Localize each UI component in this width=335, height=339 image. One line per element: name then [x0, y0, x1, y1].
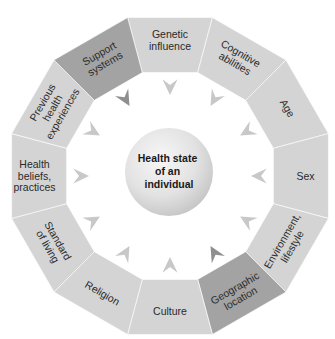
center-node: Health state of an individual: [125, 128, 213, 216]
segment-label-line: practices: [13, 181, 55, 193]
segment-label-line: beliefs,: [18, 170, 51, 182]
segment-label: Sex: [296, 170, 315, 182]
arrow-icon: [240, 121, 258, 135]
segment-label-line: Sex: [296, 170, 315, 182]
arrow-icon: [82, 217, 100, 231]
arrow-icon: [73, 168, 89, 183]
segment-label-line: Health: [19, 158, 50, 170]
segment-label-line: Culture: [153, 305, 187, 317]
arrow-icon: [211, 246, 225, 264]
arrow-icon: [115, 246, 129, 264]
arrow-icon: [211, 88, 225, 106]
arrow-icon: [82, 121, 100, 135]
segment-label: Geneticinfluence: [149, 28, 191, 52]
arrow-icon: [240, 217, 258, 231]
arrow-icon: [251, 168, 267, 183]
segment-label: Healthbeliefs,practices: [13, 158, 55, 193]
arrow-icon: [162, 79, 177, 95]
segment-label-line: influence: [149, 40, 191, 52]
arrow-icon: [115, 88, 129, 106]
segment-label: Culture: [153, 305, 187, 317]
center-label-line-1: Health state: [138, 152, 198, 164]
health-determinants-diagram: GeneticinfluenceCognitiveabilitiesAgeSex…: [0, 0, 335, 339]
center-label-line-2: of an: [155, 165, 180, 177]
arrow-icon: [162, 257, 177, 273]
segment-label-line: Genetic: [152, 28, 188, 40]
center-label-line-3: individual: [144, 178, 193, 190]
